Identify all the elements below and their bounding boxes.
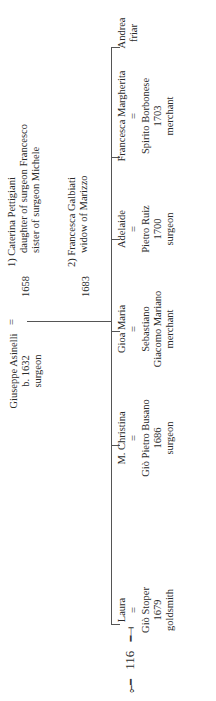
folio: ⟜━ 116 ━⟞ [124, 621, 137, 699]
marriage-year: 1703 [152, 70, 164, 161]
root-birth: b. 1632 [20, 334, 32, 409]
spouse-2-name: 2) Francesca Galbiati [66, 97, 78, 267]
marriage-year: 1686 [152, 399, 164, 477]
marriage-symbol: = [128, 205, 140, 253]
marriage-symbol: = [128, 399, 140, 477]
spouse-2-block: 2) Francesca Galbiati widow of Marizzo [66, 97, 90, 297]
child-name: Andrea [116, 18, 128, 49]
child-gioa: Gioa Maria = Sebastiano Giacomo Mariano … [116, 291, 176, 368]
root-name: Giuseppe Asinelli [8, 334, 20, 409]
root-person: Giuseppe Asinelli b. 1632 surgeon [8, 334, 44, 409]
marriage-year: 1679 [152, 587, 164, 633]
marriage-symbol: = [128, 291, 140, 368]
child-name: Gioa Maria [116, 291, 128, 368]
child-name: M. Christina [116, 399, 128, 477]
child-name: Francesca Margherita [116, 70, 128, 161]
right-ornament-icon: ━⟞ [125, 627, 137, 641]
spouse-1-block: 1) Caterina Pettigiani daughter of surge… [6, 97, 42, 297]
parent-connector [27, 321, 111, 322]
child-spouse-line-2: Giacomo Mariano [152, 291, 164, 368]
child-spouse: Giò Pietro Busano [140, 399, 152, 477]
marriage-symbol: = [6, 319, 18, 325]
spouse-occupation: goldsmith [164, 587, 176, 633]
marriage-symbol: = [128, 70, 140, 161]
marriage-year: 1700 [152, 205, 164, 253]
spouse-occupation: merchant [164, 291, 176, 368]
rotated-page: Giuseppe Asinelli b. 1632 surgeon = 1) C… [0, 0, 216, 701]
spouse-1-detail-2: sister of surgeon Michele [30, 97, 42, 253]
child-christina: M. Christina = Giò Pietro Busano 1686 su… [116, 399, 176, 477]
child-name: Adelaide [116, 205, 128, 253]
sibling-bar [111, 47, 112, 625]
child-spouse: Giò Stoper [140, 587, 152, 633]
spouse-1-name: 1) Caterina Pettigiani [6, 97, 18, 267]
left-ornament-icon: ⟜━ [125, 679, 137, 693]
child-adelaide: Adelaide = Pietro Ruiz 1700 surgeon [116, 205, 176, 253]
child-andrea: Andrea friar [116, 18, 140, 49]
spouse-occupation: surgeon [164, 205, 176, 253]
spouse-1-year: 1658 [20, 276, 32, 297]
root-occupation: surgeon [32, 334, 44, 409]
child-spouse: Sebastiano [140, 291, 152, 368]
child-francesca: Francesca Margherita = Spirito Borbonese… [116, 70, 176, 161]
child-spouse: Spirito Borbonese [140, 70, 152, 161]
spouse-occupation: surgeon [164, 399, 176, 477]
spouse-2-detail: widow of Marizzo [78, 97, 90, 253]
spouse-1-detail-1: daughter of surgeon Francesco [18, 97, 30, 253]
child-spouse: Pietro Ruiz [140, 205, 152, 253]
child-occupation: friar [128, 18, 140, 49]
spouse-2-year: 1683 [80, 276, 92, 297]
spouse-occupation: merchant [164, 70, 176, 161]
page-number: 116 [122, 651, 137, 670]
